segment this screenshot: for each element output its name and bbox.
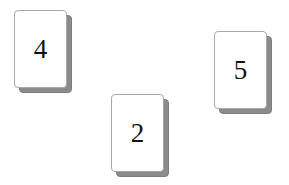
card-scene: 4 2 5 — [0, 0, 289, 185]
card-value: 5 — [234, 57, 248, 84]
card-face[interactable]: 4 — [14, 10, 67, 88]
card-face[interactable]: 2 — [111, 94, 164, 172]
card-face[interactable]: 5 — [214, 31, 267, 109]
card-value: 4 — [34, 36, 48, 63]
card-value: 2 — [131, 120, 145, 147]
